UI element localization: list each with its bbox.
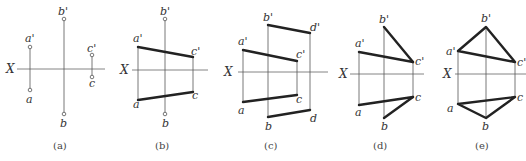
panel-e: X a' a b' b c' c (e) xyxy=(442,12,526,151)
label-d: d xyxy=(310,112,317,125)
edge-a-prime-c-prime xyxy=(243,50,297,61)
point-b xyxy=(62,112,66,116)
label-c: c xyxy=(517,91,523,104)
label-d-prime: d' xyxy=(310,21,320,34)
point-b xyxy=(163,112,167,116)
panel-b: X a' a b' b c' c (b) xyxy=(119,5,208,151)
edge-b-d xyxy=(268,110,310,117)
label-b-prime: b' xyxy=(58,5,68,18)
label-a-prime: a' xyxy=(355,37,365,50)
label-a: a xyxy=(355,106,362,119)
label-b: b xyxy=(482,120,489,133)
label-c: c xyxy=(89,77,95,90)
x-axis-label: X xyxy=(119,63,129,77)
label-a-prime: a' xyxy=(25,32,35,45)
label-a: a xyxy=(26,93,33,106)
x-axis-label: X xyxy=(5,62,15,76)
label-b-prime: b' xyxy=(481,12,491,25)
caption-d: (d) xyxy=(373,140,387,151)
triangle-front-view xyxy=(458,27,515,62)
label-c-prime: c' xyxy=(296,48,305,61)
edge-a-prime-c-prime xyxy=(138,47,193,57)
caption-a: (a) xyxy=(53,140,67,151)
edge-b-prime-d-prime xyxy=(268,25,310,33)
caption-b: (b) xyxy=(155,140,169,151)
x-axis-label: X xyxy=(442,67,452,81)
edge-a-c xyxy=(243,95,297,102)
label-b-prime: b' xyxy=(263,11,273,24)
point-a-prime xyxy=(28,45,32,49)
label-c: c xyxy=(296,93,302,106)
orthographic-projection-figure: X a' a b' b c' c (a) X a' a b' b c' c (b… xyxy=(0,0,526,161)
label-c: c xyxy=(415,91,421,104)
triangle-top-view xyxy=(458,97,515,118)
x-axis-label: X xyxy=(338,67,348,81)
panel-c: X a' a b' b c' c d' d (c) xyxy=(223,11,328,151)
label-b: b xyxy=(162,117,169,130)
panel-a: X a' a b' b c' c (a) xyxy=(5,5,105,151)
label-b-prime: b' xyxy=(160,5,170,18)
x-axis-label: X xyxy=(223,65,233,79)
point-a xyxy=(28,88,32,92)
label-a: a xyxy=(238,104,245,117)
edge-a-c xyxy=(138,92,193,100)
label-a-prime: a' xyxy=(238,35,248,48)
label-a: a xyxy=(447,102,454,115)
label-b: b xyxy=(381,120,388,133)
label-b: b xyxy=(60,117,67,130)
label-a-prime: a' xyxy=(133,32,143,45)
panel-d: X a' a b' b c' c (d) xyxy=(338,13,424,151)
label-c-prime: c' xyxy=(517,56,526,69)
label-a: a xyxy=(133,98,140,111)
label-c: c xyxy=(192,89,198,102)
label-c-prime: c' xyxy=(191,45,200,58)
label-b: b xyxy=(265,120,272,133)
label-b-prime: b' xyxy=(379,13,389,26)
caption-c: (c) xyxy=(264,140,278,151)
label-a-prime: a' xyxy=(446,45,456,58)
label-c-prime: c' xyxy=(87,42,96,55)
caption-e: (e) xyxy=(475,140,489,151)
label-c-prime: c' xyxy=(415,55,424,68)
